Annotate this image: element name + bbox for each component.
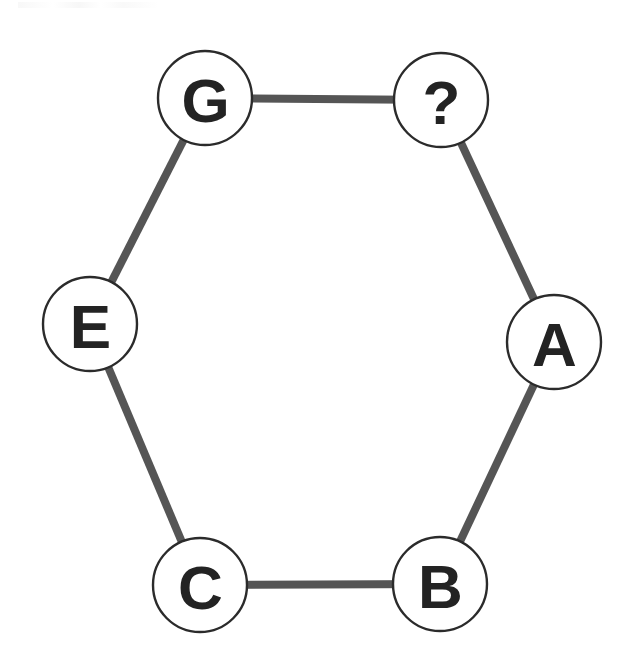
nodes-group: G?ABCE bbox=[43, 51, 601, 632]
node-g-label: G bbox=[181, 66, 228, 135]
node-b-label: B bbox=[418, 552, 462, 621]
node-c[interactable]: C bbox=[153, 538, 247, 632]
hexagon-puzzle-canvas: G?ABCE bbox=[0, 0, 638, 664]
node-e[interactable]: E bbox=[43, 277, 137, 371]
node-c-label: C bbox=[178, 553, 222, 622]
node-a-label: A bbox=[532, 310, 576, 379]
node-e-label: E bbox=[70, 292, 110, 361]
node-question[interactable]: ? bbox=[394, 53, 488, 147]
hexagon-diagram: G?ABCE bbox=[0, 0, 638, 664]
node-a[interactable]: A bbox=[507, 295, 601, 389]
edges-group bbox=[90, 98, 554, 585]
node-g[interactable]: G bbox=[158, 51, 252, 145]
node-question-label: ? bbox=[423, 68, 460, 137]
node-b[interactable]: B bbox=[393, 537, 487, 631]
